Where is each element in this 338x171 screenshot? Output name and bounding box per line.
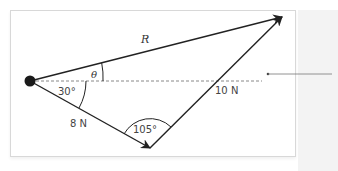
theta-arc	[102, 63, 103, 81]
label-angle-30: 30°	[58, 86, 76, 97]
label-force-10n: 10 N	[215, 85, 238, 96]
label-force-8n: 8 N	[70, 118, 87, 129]
vector-diagram: R θ 30° 8 N 10 N 105°	[0, 0, 338, 171]
origin-point	[25, 76, 36, 87]
angle-30-arc	[79, 81, 86, 108]
label-resultant: R	[140, 33, 149, 46]
force-8n-vector	[30, 81, 150, 148]
label-angle-105: 105°	[133, 124, 157, 135]
diagram-stage: R θ 30° 8 N 10 N 105°	[0, 0, 338, 171]
label-theta: θ	[91, 69, 97, 80]
resultant-vector	[30, 17, 282, 81]
force-10n-vector	[150, 17, 282, 148]
